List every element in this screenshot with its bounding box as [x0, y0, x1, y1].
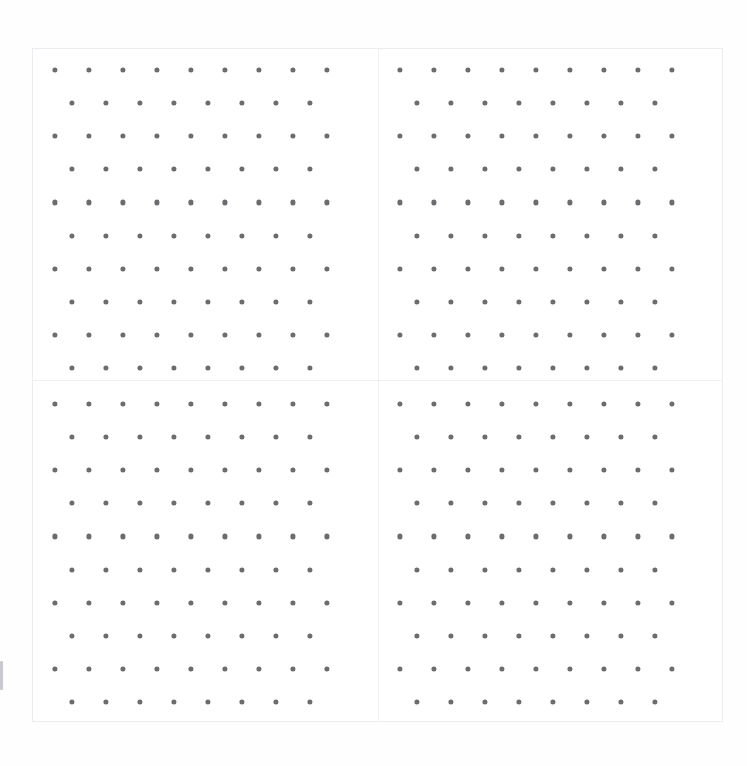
scatter-dot	[669, 134, 674, 139]
scatter-dot	[567, 666, 572, 671]
scatter-dot	[550, 233, 555, 238]
scatter-dot	[86, 534, 91, 539]
scatter-dot	[239, 233, 244, 238]
scatter-dot	[431, 332, 436, 337]
scatter-dot	[482, 167, 487, 172]
scatter-dot	[52, 534, 57, 539]
scatter-dot	[69, 299, 74, 304]
scatter-dot	[290, 134, 295, 139]
scatter-dot	[239, 699, 244, 704]
scatter-dot	[324, 67, 329, 72]
scatter-dot	[414, 567, 419, 572]
scatter-dot	[618, 435, 623, 440]
scatter-dot	[669, 266, 674, 271]
scatter-dot	[52, 266, 57, 271]
scatter-dot	[414, 501, 419, 506]
scatter-dot	[635, 332, 640, 337]
scatter-dot	[137, 299, 142, 304]
scatter-dot	[567, 67, 572, 72]
scatter-dot	[103, 101, 108, 106]
scatter-dot	[618, 233, 623, 238]
panel-bottom-right	[379, 381, 723, 722]
scatter-dot	[550, 435, 555, 440]
scatter-dot	[465, 534, 470, 539]
panel-bottom-left	[33, 381, 378, 722]
scatter-dot	[533, 534, 538, 539]
scatter-dot	[499, 67, 504, 72]
scatter-dot	[86, 332, 91, 337]
scatter-dot	[86, 600, 91, 605]
scatter-dot	[324, 666, 329, 671]
scatter-dot	[171, 365, 176, 370]
scatter-dot	[635, 200, 640, 205]
scatter-dot	[482, 699, 487, 704]
scatter-dot	[256, 666, 261, 671]
scatter-dot	[154, 67, 159, 72]
scatter-dot	[635, 666, 640, 671]
scatter-dot	[533, 134, 538, 139]
scatter-dot	[120, 600, 125, 605]
scatter-dot	[137, 567, 142, 572]
scatter-dot	[69, 699, 74, 704]
scatter-dot	[171, 233, 176, 238]
scatter-dot	[567, 332, 572, 337]
scatter-dot	[482, 567, 487, 572]
scatter-dot	[239, 567, 244, 572]
scatter-dot	[52, 134, 57, 139]
scatter-dot	[120, 332, 125, 337]
scatter-dot	[188, 332, 193, 337]
scatter-dot	[154, 266, 159, 271]
scatter-dot	[69, 435, 74, 440]
scatter-dot	[86, 468, 91, 473]
scatter-dot	[414, 699, 419, 704]
scatter-dot	[550, 101, 555, 106]
scatter-dot	[52, 401, 57, 406]
scatter-dot	[222, 67, 227, 72]
scatter-dot	[52, 666, 57, 671]
scatter-dot	[171, 299, 176, 304]
scatter-dot	[414, 299, 419, 304]
scatter-dot	[618, 633, 623, 638]
scatter-dot	[465, 332, 470, 337]
scatter-dot	[516, 435, 521, 440]
scatter-dot	[482, 501, 487, 506]
scatter-dot	[307, 101, 312, 106]
scatter-dot	[431, 67, 436, 72]
scatter-dot	[273, 699, 278, 704]
scatter-dot	[290, 200, 295, 205]
scatter-dot	[652, 633, 657, 638]
scatter-dot	[103, 699, 108, 704]
scatter-dot	[533, 266, 538, 271]
panel-top-right	[379, 49, 723, 380]
panel-top-left	[33, 49, 378, 380]
scatter-dot	[103, 365, 108, 370]
scatter-dot	[397, 266, 402, 271]
scatter-dot	[567, 600, 572, 605]
scatter-dot	[618, 699, 623, 704]
scatter-dot	[618, 567, 623, 572]
scatter-dot	[448, 501, 453, 506]
scatter-dot	[584, 501, 589, 506]
scatter-dot	[499, 200, 504, 205]
scatter-dot	[205, 567, 210, 572]
scatter-dot	[414, 101, 419, 106]
scatter-dot	[465, 468, 470, 473]
scatter-dot	[669, 401, 674, 406]
scatter-dot	[567, 401, 572, 406]
scatter-dot	[103, 567, 108, 572]
scatter-dot	[550, 567, 555, 572]
scatter-dot	[635, 134, 640, 139]
scatter-dot	[618, 299, 623, 304]
scatter-dot	[188, 666, 193, 671]
scatter-dot	[601, 468, 606, 473]
scatter-dot	[86, 401, 91, 406]
scatter-dot	[307, 299, 312, 304]
scatter-dot	[482, 299, 487, 304]
scatter-dot	[601, 332, 606, 337]
scatter-dot	[154, 600, 159, 605]
scatter-dot	[256, 200, 261, 205]
scatter-dot	[273, 501, 278, 506]
scatter-dot	[137, 365, 142, 370]
scatter-dot	[239, 101, 244, 106]
scatter-dot	[324, 468, 329, 473]
